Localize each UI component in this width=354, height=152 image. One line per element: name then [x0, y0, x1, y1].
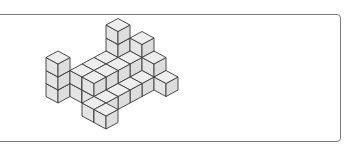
isometric-cube-figure: [0, 0, 354, 152]
